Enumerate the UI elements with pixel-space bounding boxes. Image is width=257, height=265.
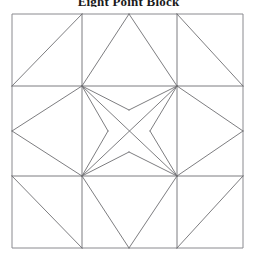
quilt-block-figure (0, 0, 257, 265)
block-segment-right-diamond-lower (177, 131, 243, 176)
block-segment-corner-tl-diagonal (12, 14, 82, 86)
block-segment-left-diamond-lower (12, 131, 82, 176)
block-segment-bottom-star-point-left (82, 176, 129, 248)
block-segment-corner-br-diagonal (177, 176, 243, 248)
block-segment-top-star-point-right (129, 14, 177, 86)
page-root: Eight Point Block (0, 0, 257, 265)
block-segment-right-diamond-upper (177, 86, 243, 131)
block-segment-corner-tr-diagonal (177, 14, 243, 86)
block-segment-left-diamond-upper (12, 86, 82, 131)
quilt-block-svg (0, 0, 257, 265)
block-segment-corner-bl-diagonal (12, 176, 82, 248)
block-segment-bottom-star-point-right (129, 176, 177, 248)
block-segment-top-star-point-left (82, 14, 129, 86)
